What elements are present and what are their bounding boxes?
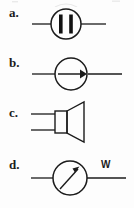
figure-canvas: a. b. bbox=[0, 0, 134, 208]
option-row-c[interactable]: c. bbox=[0, 100, 134, 148]
option-label-b: b. bbox=[9, 56, 19, 69]
bar-left-a bbox=[59, 15, 63, 34]
symbol-circle-with-two-vertical-bars bbox=[26, 0, 134, 48]
option-row-a[interactable]: a. bbox=[0, 0, 134, 48]
unit-label-watt: W bbox=[101, 160, 110, 170]
speaker-driver-body-c bbox=[55, 111, 67, 133]
symbol-meter-with-needle bbox=[26, 152, 134, 200]
bar-right-a bbox=[69, 15, 73, 34]
option-row-d[interactable]: d. W bbox=[0, 152, 134, 200]
symbol-circle-with-right-arrow bbox=[26, 50, 134, 98]
option-label-a: a. bbox=[9, 6, 19, 19]
symbol-body-circle-a bbox=[51, 9, 81, 39]
option-label-c: c. bbox=[9, 106, 18, 119]
symbol-loudspeaker bbox=[26, 100, 134, 148]
option-row-b[interactable]: b. bbox=[0, 50, 134, 98]
speaker-horn-c bbox=[67, 102, 84, 142]
option-label-d: d. bbox=[9, 158, 19, 171]
